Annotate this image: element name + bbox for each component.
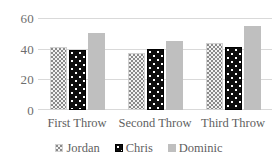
bar-dominic-first-throw [88, 33, 105, 110]
x-axis-label-third-throw: Third Throw [194, 114, 272, 132]
bar-group-first-throw [38, 18, 116, 110]
y-axis-tick-20: 20 [0, 73, 34, 86]
legend-item-chris[interactable]: Chris [115, 142, 153, 155]
bar-chart: 0 20 40 60 First Throw Secon [0, 0, 278, 162]
legend-swatch-dominic-icon [168, 144, 176, 152]
bar-dominic-third-throw [244, 26, 261, 110]
bar-jordan-first-throw [50, 47, 67, 110]
legend-swatch-jordan-icon [55, 144, 63, 152]
x-axis-label-first-throw: First Throw [38, 114, 116, 132]
legend-swatch-chris-icon [115, 144, 123, 152]
y-axis-tick-60: 60 [0, 12, 34, 25]
y-axis-tick-40: 40 [0, 42, 34, 55]
legend-item-dominic[interactable]: Dominic [168, 142, 223, 155]
legend: Jordan Chris Dominic [0, 138, 278, 158]
legend-item-jordan[interactable]: Jordan [55, 142, 99, 155]
bar-group-third-throw [194, 18, 272, 110]
bar-chris-third-throw [225, 47, 242, 110]
bar-group-second-throw [116, 18, 194, 110]
y-axis-tick-0: 0 [0, 104, 34, 117]
y-axis: 0 20 40 60 [0, 18, 34, 110]
x-axis-label-second-throw: Second Throw [116, 114, 194, 132]
x-axis: First Throw Second Throw Third Throw [38, 114, 272, 132]
bar-dominic-second-throw [166, 41, 183, 110]
bar-chris-first-throw [69, 50, 86, 110]
bar-jordan-third-throw [206, 43, 223, 110]
plot-area [38, 18, 272, 110]
legend-label-jordan: Jordan [66, 142, 99, 155]
legend-label-chris: Chris [126, 142, 153, 155]
bar-jordan-second-throw [128, 53, 145, 110]
bar-chris-second-throw [147, 49, 164, 110]
legend-label-dominic: Dominic [179, 142, 223, 155]
